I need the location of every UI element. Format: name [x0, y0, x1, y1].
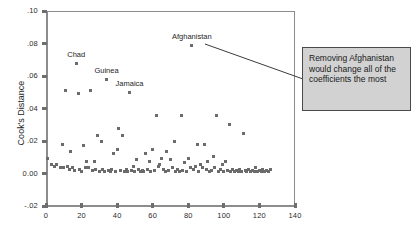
data-point [183, 161, 186, 164]
callout-leader-line [200, 33, 305, 83]
data-point [105, 78, 108, 81]
data-point [84, 166, 87, 169]
x-axis-tick-label: 0 [31, 211, 61, 220]
data-point [96, 134, 99, 137]
data-point [160, 157, 163, 160]
cooks-distance-scatter-chart: Cook's Distance .10.08.06.04.020.00-.02 … [0, 0, 413, 236]
y-axis-tick [42, 140, 47, 143]
data-point [75, 62, 78, 65]
point-label-jamaica: Jamaica [116, 79, 144, 88]
data-point [164, 170, 167, 173]
data-point [224, 160, 227, 163]
x-axis-tick [187, 203, 190, 208]
data-point [181, 169, 184, 172]
data-point [117, 127, 120, 130]
data-point [112, 152, 115, 155]
point-label-chad: Chad [67, 50, 85, 59]
data-point [133, 170, 136, 173]
data-point [100, 140, 103, 143]
data-point [130, 169, 133, 172]
data-point [165, 150, 168, 153]
data-point [210, 169, 213, 172]
data-point [192, 168, 195, 171]
data-point [189, 166, 192, 169]
data-point [149, 170, 152, 173]
data-point [119, 169, 122, 172]
x-axis-tick-label: 40 [102, 211, 132, 220]
data-point [212, 155, 215, 158]
data-point [103, 170, 106, 173]
data-point [185, 170, 188, 173]
x-axis-tick [258, 203, 261, 208]
data-point [94, 168, 97, 171]
data-point [173, 140, 176, 143]
data-point [187, 157, 190, 160]
data-point [203, 143, 206, 146]
y-axis-tick [42, 107, 47, 110]
data-point [169, 158, 172, 161]
data-point [46, 157, 49, 160]
x-axis-tick-label: 120 [244, 211, 274, 220]
data-point [62, 166, 65, 169]
y-axis-tick [42, 10, 47, 13]
data-point [116, 148, 119, 151]
callout-annotation-box: Removing Afghanistan would change all of… [302, 47, 411, 111]
data-point [132, 165, 135, 168]
data-point [253, 170, 256, 173]
data-point [69, 150, 72, 153]
data-point [64, 89, 67, 92]
data-point [77, 92, 80, 95]
data-point [110, 168, 113, 171]
data-point [85, 160, 88, 163]
y-axis-tick-label: .08 [0, 39, 38, 48]
data-point [148, 160, 151, 163]
x-axis-tick [151, 203, 154, 208]
y-axis-title: Cook's Distance [16, 48, 26, 178]
x-axis-tick [294, 203, 297, 208]
data-point [201, 166, 204, 169]
data-point [215, 114, 218, 117]
point-label-guinea: Guinea [94, 66, 118, 75]
x-axis-tick-label: 140 [280, 211, 310, 220]
data-point [80, 170, 83, 173]
y-axis-tick-label: .10 [0, 6, 38, 15]
y-axis-tick [42, 172, 47, 175]
data-point [73, 169, 76, 172]
data-point [126, 170, 129, 173]
data-point [135, 158, 138, 161]
data-point [171, 166, 174, 169]
data-point [55, 163, 58, 166]
data-point [178, 170, 181, 173]
x-axis-tick-label: 20 [67, 211, 97, 220]
data-point [240, 170, 243, 173]
data-point [226, 169, 229, 172]
y-axis-tick-label: 0.00 [0, 169, 38, 178]
data-point [121, 134, 124, 137]
data-point [89, 89, 92, 92]
x-axis-tick-label: 80 [173, 211, 203, 220]
x-axis-tick [80, 203, 83, 208]
data-point [59, 166, 62, 169]
data-point [194, 165, 197, 168]
data-point [61, 143, 64, 146]
data-point [98, 170, 101, 173]
data-point [213, 166, 216, 169]
data-point [82, 144, 85, 147]
y-axis-tick-label: .04 [0, 104, 38, 113]
data-point [68, 168, 71, 171]
data-point [93, 160, 96, 163]
data-point [221, 163, 224, 166]
data-point [144, 152, 147, 155]
data-point [219, 168, 222, 171]
data-point [167, 169, 170, 172]
x-axis-tick-label: 60 [138, 211, 168, 220]
y-axis-tick-label: .02 [0, 136, 38, 145]
data-point [50, 163, 53, 166]
x-axis-tick [222, 203, 225, 208]
y-axis-tick-label: .06 [0, 71, 38, 80]
data-point [242, 132, 245, 135]
data-point [155, 114, 158, 117]
data-point [190, 44, 193, 47]
data-point [206, 160, 209, 163]
x-axis-tick [116, 203, 119, 208]
